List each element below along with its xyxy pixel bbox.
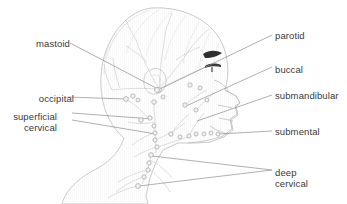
lymph-node-deep-cervical (147, 161, 151, 165)
lymph-node-deep-cervical (142, 175, 146, 179)
label-line: buccal (275, 64, 303, 75)
label-line: cervical (24, 122, 57, 133)
label-line: parotid (275, 30, 305, 41)
label-parotid: parotid (275, 31, 305, 42)
lymph-node-parotid (188, 83, 192, 87)
lymph-node-mastoid (152, 100, 157, 105)
label-line: occipital (39, 93, 74, 104)
lymph-node-parotid (198, 86, 202, 90)
lymph-node-submandibular (169, 132, 173, 136)
lymph-node-submandibular (178, 135, 182, 139)
lymph-node-submental (209, 131, 213, 135)
label-line: mastoid (36, 38, 70, 49)
lymph-node-superficial-cervical (148, 116, 152, 120)
lymph-node-occipital (136, 98, 140, 102)
head-neck-silhouette (62, 8, 240, 204)
lymph-node-parotid (161, 95, 165, 99)
lymph-node-buccal (205, 98, 209, 102)
label-buccal: buccal (275, 65, 303, 76)
label-occipital: occipital (0, 94, 74, 105)
lymph-node-occipital (124, 97, 129, 102)
lymph-node-superficial-cervical (153, 138, 157, 142)
label-submental: submental (275, 127, 320, 138)
label-line: superficial (13, 111, 57, 122)
lymph-node-submandibular (187, 134, 191, 138)
lymph-node-superficial-cervical (152, 124, 156, 128)
leader-line-deep-cervical (152, 156, 272, 170)
label-line: cervical (275, 178, 308, 189)
lymph-node-deep-cervical (149, 153, 154, 158)
lymph-node-diagram: mastoidoccipitalsuperficialcervicalparot… (0, 0, 347, 204)
lymph-node-buccal (183, 103, 187, 107)
lymph-node-deep-cervical (146, 168, 150, 172)
lymph-node-deep-cervical (136, 184, 141, 189)
lymph-node-submandibular (194, 132, 198, 136)
label-superficial-cervical: superficialcervical (0, 112, 57, 133)
node-group-submental (202, 131, 220, 136)
label-line: submandibular (275, 90, 339, 101)
lymph-node-buccal (194, 108, 198, 112)
lymph-node-occipital (131, 94, 135, 98)
lymph-node-superficial-cervical (155, 145, 159, 149)
lymph-node-superficial-cervical (139, 118, 144, 123)
label-deep-cervical: deepcervical (275, 168, 308, 189)
lymph-node-mastoid (155, 88, 160, 93)
lymph-node-submental (216, 132, 220, 136)
label-submandibular: submandibular (275, 91, 339, 102)
label-line: deep (275, 167, 297, 178)
label-line: submental (275, 126, 320, 137)
lymph-node-superficial-cervical (153, 131, 157, 135)
label-mastoid: mastoid (0, 39, 70, 50)
lymph-node-submental (202, 132, 206, 136)
